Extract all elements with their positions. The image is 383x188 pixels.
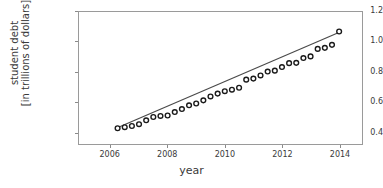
data-point: [265, 69, 270, 74]
x-tick-mark: [167, 145, 168, 148]
x-tick-label: 2010: [215, 151, 235, 159]
x-tick-mark: [225, 145, 226, 148]
trend-line: [116, 32, 340, 128]
y-tick-label: 1.2: [313, 7, 383, 15]
data-point: [172, 110, 177, 115]
data-point: [115, 126, 120, 131]
data-point: [280, 65, 285, 70]
data-point: [244, 77, 249, 82]
data-point: [251, 76, 256, 81]
data-point: [180, 107, 185, 112]
data-point: [287, 61, 292, 66]
y-tick-mark: [75, 133, 78, 134]
y-axis-label-line1: student debt: [9, 21, 21, 85]
data-point: [165, 113, 170, 118]
data-point: [222, 89, 227, 94]
y-tick-label: 0.6: [313, 98, 383, 106]
x-tick-label: 2008: [157, 151, 177, 159]
y-tick-mark: [75, 11, 78, 12]
y-tick-label: 0.8: [313, 68, 383, 76]
data-point: [194, 101, 199, 106]
data-point: [237, 85, 242, 90]
y-tick-label: 0.4: [313, 129, 383, 137]
data-point: [130, 124, 135, 129]
y-axis-label: student debt [in trillions of dollars]: [0, 0, 40, 118]
plot-area: [78, 11, 363, 145]
data-point: [158, 114, 163, 119]
data-point: [322, 45, 327, 50]
data-point: [294, 60, 299, 65]
data-point: [137, 122, 142, 127]
data-point: [201, 98, 206, 103]
data-point: [144, 118, 149, 123]
data-point: [258, 73, 263, 78]
y-axis-label-line2: [in trillions of dollars]: [20, 0, 32, 106]
data-point: [151, 115, 156, 120]
data-point: [315, 47, 320, 52]
x-tick-label: 2012: [272, 151, 292, 159]
data-point: [301, 56, 306, 61]
data-point: [230, 87, 235, 92]
data-point: [208, 94, 213, 99]
x-tick-mark: [282, 145, 283, 148]
data-point: [122, 125, 127, 130]
chart-data-svg: [79, 12, 362, 144]
y-tick-label: 1.0: [313, 37, 383, 45]
data-point: [272, 68, 277, 73]
chart-figure: 0.40.60.81.01.2 20062008201020122014 stu…: [0, 0, 383, 188]
data-point: [187, 103, 192, 108]
x-tick-label: 2006: [99, 151, 119, 159]
y-tick-mark: [75, 102, 78, 103]
y-tick-mark: [75, 72, 78, 73]
x-tick-mark: [110, 145, 111, 148]
y-tick-mark: [75, 41, 78, 42]
x-axis-label: year: [0, 165, 383, 177]
x-tick-label: 2014: [330, 151, 350, 159]
data-point: [308, 54, 313, 59]
trend-line-group: [116, 32, 340, 128]
x-tick-mark: [340, 145, 341, 148]
data-point: [215, 91, 220, 96]
data-point: [337, 29, 342, 34]
